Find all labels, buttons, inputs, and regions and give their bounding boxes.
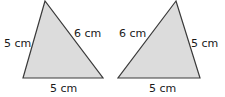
right-triangle-base-label: 5 cm	[149, 83, 176, 94]
right-triangle-left-side-label: 6 cm	[119, 28, 146, 39]
left-triangle-left-side-label: 5 cm	[4, 38, 31, 49]
right-triangle-right-side-label: 5 cm	[191, 38, 218, 49]
left-triangle-right-side-label: 6 cm	[74, 28, 101, 39]
left-triangle-base-label: 5 cm	[50, 83, 77, 94]
